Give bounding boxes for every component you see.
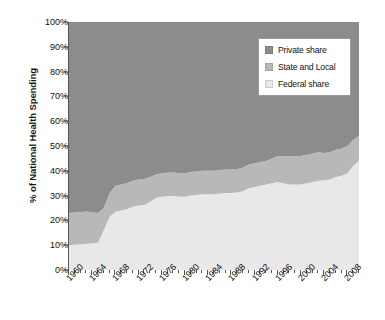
legend-item-federal-share: Federal share	[265, 79, 345, 89]
y-axis-ticks: 0%10%20%30%40%50%60%70%80%90%100%	[26, 22, 68, 270]
stacked-area-chart: % of National Health Spending 0%10%20%30…	[0, 0, 385, 320]
y-tick-label: 50%	[34, 141, 68, 151]
x-tick-mark-minor	[201, 270, 202, 273]
legend-label-federal-share: Federal share	[278, 79, 329, 89]
y-tick-label: 100%	[34, 17, 68, 27]
x-tick-mark-minor	[294, 270, 295, 273]
legend-label-state-and-local: State and Local	[278, 62, 335, 72]
x-tick-mark-minor	[225, 270, 226, 273]
x-tick-mark-minor	[317, 270, 318, 273]
y-tick-label: 40%	[34, 166, 68, 176]
x-tick-mark-minor	[109, 270, 110, 273]
x-tick-mark-minor	[248, 270, 249, 273]
y-tick-label: 20%	[34, 215, 68, 225]
x-tick-mark-minor	[85, 270, 86, 273]
legend-swatch-state-and-local	[265, 63, 273, 71]
y-tick-label: 10%	[34, 240, 68, 250]
x-tick-mark-minor	[178, 270, 179, 273]
x-tick-mark-minor	[155, 270, 156, 273]
x-tick-mark-minor	[132, 270, 133, 273]
y-tick-label: 0%	[34, 265, 68, 275]
x-tick-mark-minor	[271, 270, 272, 273]
x-axis-tick-labels: 1960196419681972197619801984198819921996…	[68, 276, 359, 320]
x-tick-mark-minor	[341, 270, 342, 273]
y-tick-label: 90%	[34, 42, 68, 52]
chart-legend: Private share State and Local Federal sh…	[258, 38, 351, 96]
legend-item-state-and-local: State and Local	[265, 62, 345, 72]
y-tick-label: 60%	[34, 116, 68, 126]
legend-swatch-private-share	[265, 46, 273, 54]
y-tick-label: 70%	[34, 91, 68, 101]
legend-item-private-share: Private share	[265, 45, 345, 55]
legend-swatch-federal-share	[265, 80, 273, 88]
y-tick-label: 80%	[34, 67, 68, 77]
y-tick-label: 30%	[34, 191, 68, 201]
legend-label-private-share: Private share	[278, 45, 327, 55]
